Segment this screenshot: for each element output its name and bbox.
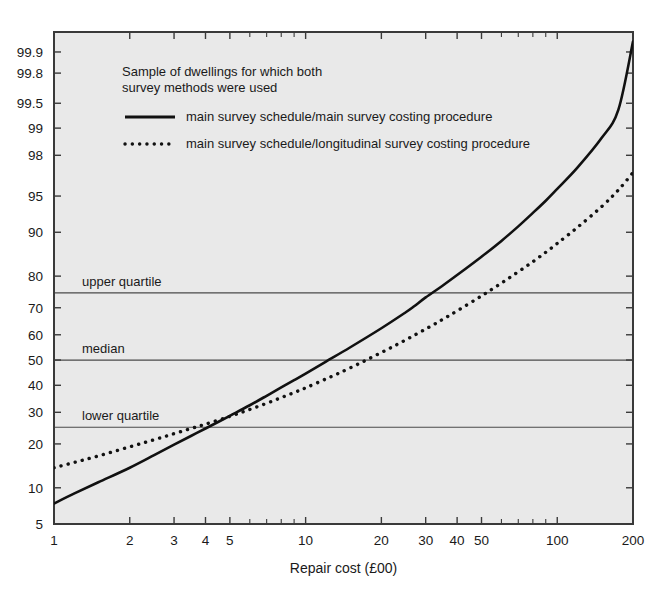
- probability-plot: upper quartilemedianlower quartile510203…: [0, 0, 671, 601]
- y-tick-label-70: 70: [28, 301, 43, 316]
- y-tick-label-5: 5: [35, 517, 43, 532]
- x-tick-label-100: 100: [546, 533, 569, 548]
- y-tick-label-10: 10: [28, 481, 43, 496]
- x-tick-label-200: 200: [622, 533, 645, 548]
- x-tick-label-30: 30: [418, 533, 433, 548]
- reference-line-label-median: median: [82, 341, 125, 356]
- y-tick-label-99.5: 99.5: [17, 96, 43, 111]
- y-tick-label-98: 98: [28, 148, 43, 163]
- reference-line-label-upper-quartile: upper quartile: [82, 274, 162, 289]
- y-tick-label-99.9: 99.9: [17, 45, 43, 60]
- x-tick-label-1: 1: [50, 533, 58, 548]
- figure-container: upper quartilemedianlower quartile510203…: [0, 0, 671, 601]
- legend-heading-line1: Sample of dwellings for which both: [122, 64, 322, 79]
- x-tick-label-20: 20: [374, 533, 389, 548]
- x-tick-label-10: 10: [298, 533, 313, 548]
- y-tick-label-40: 40: [28, 378, 43, 393]
- x-tick-label-50: 50: [474, 533, 489, 548]
- x-tick-label-3: 3: [170, 533, 178, 548]
- x-tick-label-5: 5: [226, 533, 234, 548]
- y-tick-label-99: 99: [28, 121, 43, 136]
- y-tick-label-60: 60: [28, 328, 43, 343]
- legend-heading-line2: survey methods were used: [122, 80, 277, 95]
- y-tick-label-80: 80: [28, 269, 43, 284]
- legend-label-1: main survey schedule/longitudinal survey…: [186, 136, 530, 151]
- reference-line-label-lower-quartile: lower quartile: [82, 408, 159, 423]
- x-tick-label-40: 40: [450, 533, 465, 548]
- y-tick-label-99.8: 99.8: [17, 66, 43, 81]
- y-tick-label-95: 95: [28, 189, 43, 204]
- x-axis-caption: Repair cost (£00): [290, 560, 397, 576]
- y-tick-label-50: 50: [28, 353, 43, 368]
- y-tick-label-20: 20: [28, 437, 43, 452]
- x-tick-label-4: 4: [202, 533, 210, 548]
- legend-label-0: main survey schedule/main survey costing…: [186, 109, 492, 124]
- x-tick-label-2: 2: [126, 533, 134, 548]
- y-tick-label-30: 30: [28, 405, 43, 420]
- y-tick-label-90: 90: [28, 225, 43, 240]
